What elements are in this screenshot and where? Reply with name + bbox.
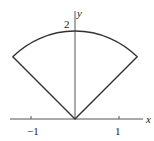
y-axis-label: y — [76, 7, 82, 19]
y-tick-label-2: 2 — [64, 18, 70, 30]
x-tick-label-1: 1 — [115, 125, 121, 137]
x-tick-label-neg1: −1 — [27, 125, 39, 137]
x-axis-label: x — [145, 113, 151, 125]
sector-diagram: x y 2 −1 1 — [0, 0, 154, 141]
